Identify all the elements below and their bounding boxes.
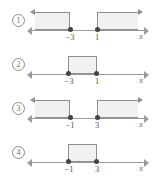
band-arrow-right-icon xyxy=(138,97,143,103)
axis-label-x: x xyxy=(139,119,143,129)
option-row-1[interactable]: 1 x −3 1 xyxy=(0,0,153,45)
band-arrow-right-icon xyxy=(138,9,143,15)
tick-label-right: 3 xyxy=(87,164,107,174)
tick-label-right: 1 xyxy=(87,76,107,86)
band-arrow-left-icon xyxy=(30,9,35,15)
number-line-axis xyxy=(30,30,146,31)
option-index-1: 1 xyxy=(12,14,25,27)
solution-band-left xyxy=(35,12,70,30)
tick-label-left: −3 xyxy=(60,32,80,42)
axis-label-x: x xyxy=(139,163,143,173)
solution-band-right xyxy=(97,100,138,118)
tick-label-right: 1 xyxy=(87,32,107,42)
solution-band-middle xyxy=(68,56,97,74)
tick-label-left: −1 xyxy=(59,164,79,174)
solution-band-right xyxy=(97,12,138,30)
number-line-axis xyxy=(30,162,146,163)
option-index-2: 2 xyxy=(12,58,25,71)
axis-arrow-left-icon xyxy=(27,71,32,79)
option-row-3[interactable]: 3 x −1 3 xyxy=(0,88,153,133)
tick-label-left: −3 xyxy=(59,76,79,86)
number-line-axis xyxy=(30,118,146,119)
option-index-3: 3 xyxy=(12,102,25,115)
axis-label-x: x xyxy=(139,31,143,41)
axis-arrow-right-icon xyxy=(144,27,149,35)
axis-arrow-left-icon xyxy=(27,115,32,123)
axis-arrow-left-icon xyxy=(27,27,32,35)
solution-band-middle xyxy=(68,144,97,162)
number-line-axis xyxy=(30,74,146,75)
tick-label-right: 3 xyxy=(87,120,107,130)
axis-arrow-right-icon xyxy=(144,115,149,123)
axis-label-x: x xyxy=(139,75,143,85)
band-arrow-left-icon xyxy=(30,97,35,103)
axis-arrow-left-icon xyxy=(27,159,32,167)
option-row-4[interactable]: 4 x −1 3 xyxy=(0,132,153,177)
number-line-options-figure: 1 x −3 1 2 x −3 1 3 xyxy=(0,0,153,180)
axis-arrow-right-icon xyxy=(144,71,149,79)
tick-label-left: −1 xyxy=(60,120,80,130)
axis-arrow-right-icon xyxy=(144,159,149,167)
solution-band-left xyxy=(35,100,70,118)
option-row-2[interactable]: 2 x −3 1 xyxy=(0,44,153,89)
option-index-4: 4 xyxy=(12,146,25,159)
